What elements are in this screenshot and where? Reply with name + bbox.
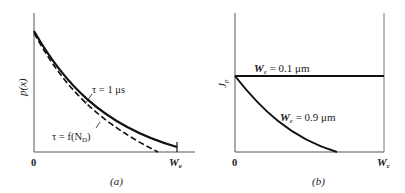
panel-a-x-start: 0 (31, 157, 36, 168)
panel-a-y-label: p(x) (16, 78, 29, 97)
panel-a-dashed-label: τ = f(ND) (52, 131, 91, 144)
figure: τ = 1 μs τ = f(ND) p(x) 0 We (a) We = 0.… (0, 0, 405, 193)
panel-b-x-start: 0 (232, 157, 237, 168)
panel-a-x-end: We (169, 156, 182, 170)
panel-a: τ = 1 μs τ = f(ND) p(x) 0 We (a) (16, 13, 195, 188)
panel-b-caption: (b) (312, 175, 325, 188)
panel-b-curve-label: We = 0.9 μm (280, 111, 336, 125)
panel-b: We = 0.1 μm We = 0.9 μm Jp 0 Wc (b) (216, 13, 390, 188)
panel-a-solid-label: τ = 1 μs (92, 84, 125, 95)
panel-a-dashed-leader (96, 122, 100, 128)
panel-a-caption: (a) (110, 175, 123, 188)
panel-b-x-end: Wc (377, 156, 390, 170)
panel-b-flat-label: We = 0.1 μm (254, 62, 310, 76)
panel-b-y-label: Jp (216, 79, 230, 88)
